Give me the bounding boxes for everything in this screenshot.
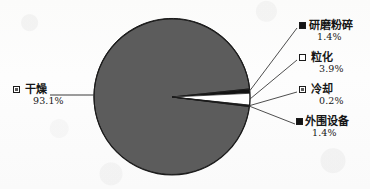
callout-cooling-row: 冷却 <box>299 84 344 96</box>
callout-peripheral-row: 外围设备 <box>296 116 349 128</box>
callout-cooling-label: 冷却 <box>311 84 333 96</box>
callout-milling-label: 研磨粉碎 <box>309 20 353 32</box>
legend-marker-black-icon <box>296 118 303 125</box>
legend-marker-white-icon <box>299 54 306 61</box>
leader-line-cooling <box>250 92 297 106</box>
callout-milling-value: 1.4% <box>317 32 353 42</box>
callout-milling: 研磨粉碎 1.4% <box>299 20 353 42</box>
legend-marker-black-icon <box>299 22 306 29</box>
callout-peripheral: 外围设备 1.4% <box>296 116 349 138</box>
callout-granulation-label: 粒化 <box>311 52 333 64</box>
legend-marker-gray-icon <box>13 86 20 93</box>
callout-granulation-row: 粒化 <box>299 52 344 64</box>
callout-cooling-value: 0.2% <box>319 96 344 106</box>
callout-cooling: 冷却 0.2% <box>299 84 344 106</box>
callout-milling-row: 研磨粉碎 <box>299 20 353 32</box>
legend-marker-gray-icon <box>299 86 306 93</box>
callout-drying-row: 干燥 <box>13 84 64 96</box>
callout-granulation-value: 3.9% <box>319 64 344 74</box>
callout-drying-label: 干燥 <box>25 84 47 96</box>
leader-line-peripheral <box>250 106 296 124</box>
callout-drying: 干燥 93.1% <box>13 84 64 106</box>
callout-drying-value: 93.1% <box>33 96 64 106</box>
callout-peripheral-value: 1.4% <box>312 128 349 138</box>
leader-line-granulation <box>250 60 297 99</box>
callout-granulation: 粒化 3.9% <box>299 52 344 74</box>
leader-line-milling <box>250 28 297 91</box>
callout-peripheral-label: 外围设备 <box>305 116 349 128</box>
